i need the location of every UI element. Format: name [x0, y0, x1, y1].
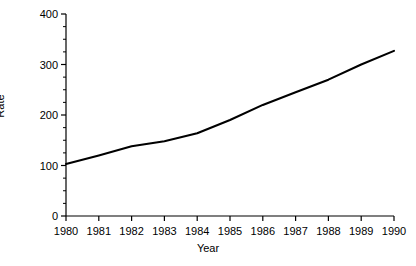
x-axis-tick-label: 1990 [382, 226, 406, 237]
y-axis-title: Rate [8, 99, 22, 143]
y-axis-tick-label: 400 [18, 9, 58, 20]
x-axis-title: Year [0, 243, 416, 254]
x-axis-major-ticks [66, 216, 394, 221]
x-axis-tick-label: 1989 [349, 226, 373, 237]
x-axis-tick-label: 1986 [251, 226, 275, 237]
x-axis-tick-label: 1980 [54, 226, 78, 237]
x-axis-tick-label: 1982 [119, 226, 143, 237]
x-axis-tick-label: 1985 [218, 226, 242, 237]
rate-data-line [66, 51, 394, 164]
y-axis-title-text: Rate [0, 84, 7, 128]
y-axis-tick-label: 200 [18, 110, 58, 121]
x-axis-tick-label: 1987 [283, 226, 307, 237]
x-axis-tick-label: 1981 [87, 226, 111, 237]
axes [66, 14, 394, 216]
x-axis-tick-label: 1983 [152, 226, 176, 237]
y-axis-major-ticks [61, 14, 66, 216]
x-axis-tick-label: 1984 [185, 226, 209, 237]
y-axis-tick-label: 100 [18, 160, 58, 171]
y-axis-tick-label: 300 [18, 59, 58, 70]
rate-by-year-line-chart: 0100200300400 19801981198219831984198519… [0, 0, 416, 266]
y-axis-tick-label: 0 [18, 211, 58, 222]
x-axis-tick-label: 1988 [316, 226, 340, 237]
